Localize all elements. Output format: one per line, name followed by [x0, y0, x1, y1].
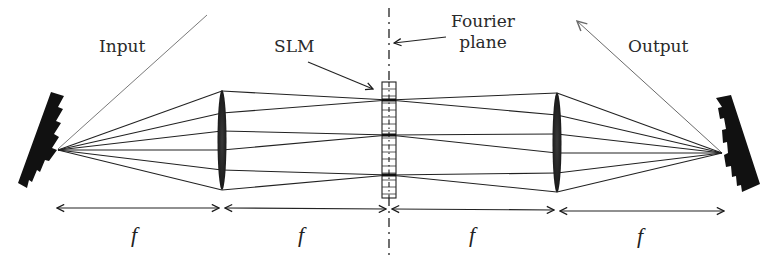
rays-grating1-to-lens1 [58, 91, 222, 190]
output-grating [716, 95, 760, 192]
slm-pointer-arrow [308, 62, 373, 89]
distance-label-3: f [469, 224, 475, 246]
lens-2 [553, 93, 562, 193]
slm [382, 82, 396, 198]
output-label: Output [628, 38, 688, 55]
distance-label-2: f [298, 224, 304, 246]
fourier-pointer-arrow [394, 37, 446, 43]
distance-arrow-3 [392, 209, 554, 210]
fourier-pulse-shaper-diagram: Input Output SLM Fourier plane f f f f [0, 0, 779, 272]
distance-label-4: f [637, 225, 643, 247]
distance-arrows [57, 208, 724, 211]
fourier-label-line1: Fourier [450, 13, 516, 30]
distance-label-1: f [131, 224, 137, 246]
rays-lens2-to-grating2 [557, 93, 722, 192]
fourier-label-line2: plane [450, 34, 516, 51]
rays-slm-to-lens2 [389, 93, 557, 192]
distance-arrow-2 [225, 208, 386, 209]
slm-label: SLM [274, 38, 314, 55]
rays-lens1-to-slm [222, 91, 389, 190]
lens-1 [218, 90, 227, 190]
fourier-plane-label: Fourier plane [450, 13, 516, 51]
input-label: Input [99, 38, 145, 55]
input-grating [18, 92, 64, 188]
